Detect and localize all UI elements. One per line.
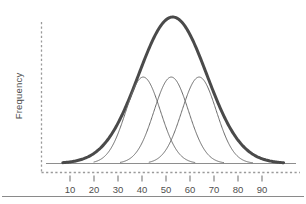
x-axis-tick-label: 30 — [113, 184, 124, 195]
x-axis-tick-labels: 102030405060708090 — [65, 184, 268, 195]
normal-distribution-chart: Frequency 102030405060708090 — [0, 0, 306, 204]
x-axis-tick-label: 40 — [137, 184, 148, 195]
x-axis-tick-label: 60 — [185, 184, 196, 195]
x-axis-tick-label: 10 — [65, 184, 76, 195]
x-axis-tick-label: 20 — [89, 184, 100, 195]
x-axis-tick-label: 50 — [161, 184, 172, 195]
y-axis-title: Frequency — [13, 73, 24, 120]
chart-background — [0, 0, 306, 204]
x-axis-tick-label: 70 — [209, 184, 220, 195]
x-axis-tick-label: 90 — [257, 184, 268, 195]
x-axis-tick-label: 80 — [233, 184, 244, 195]
figure-container: Frequency 102030405060708090 — [0, 0, 306, 204]
